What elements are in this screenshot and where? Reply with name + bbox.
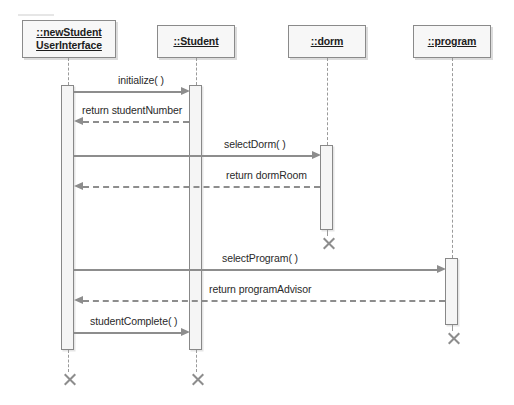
activation-bar-program[interactable]: [445, 258, 458, 325]
activation-bar-student[interactable]: [189, 85, 202, 350]
lifeline-head-student[interactable]: ::Student: [157, 25, 235, 58]
lifeline-head-ui[interactable]: ::newStudent UserInterface: [22, 20, 116, 58]
termination-x-student: [189, 372, 204, 387]
message-arrowhead-return-dorm-room: [74, 182, 83, 190]
message-line-return-program-advisor: [83, 300, 445, 302]
message-label-return-student-number: return studentNumber: [82, 104, 182, 116]
message-label-return-program-advisor: return programAdvisor: [209, 283, 311, 295]
message-line-return-dorm-room: [83, 186, 320, 188]
activation-bar-ui[interactable]: [61, 85, 74, 350]
lifeline-head-dorm[interactable]: ::dorm: [288, 25, 366, 58]
message-line-student-complete: [74, 332, 181, 334]
message-label-initialize: initialize( ): [118, 74, 164, 86]
lifeline-student-name-line-1: ::Student: [173, 35, 218, 48]
lifeline-ui-name-line-1: ::newStudent: [36, 26, 101, 39]
lifeline-stub-student: [196, 350, 197, 372]
message-arrowhead-select-dorm: [312, 151, 321, 159]
termination-x-ui: [61, 372, 76, 387]
message-label-student-complete: studentComplete( ): [90, 315, 178, 327]
message-line-initialize: [74, 91, 181, 93]
message-line-return-student-number: [83, 121, 189, 123]
message-arrowhead-initialize: [181, 87, 190, 95]
termination-x-dorm: [320, 236, 335, 251]
lifeline-line-ui: [68, 58, 69, 85]
lifeline-line-student: [196, 58, 197, 85]
message-arrowhead-return-program-advisor: [74, 296, 83, 304]
message-line-select-dorm: [74, 155, 312, 157]
lifeline-line-dorm: [327, 58, 328, 145]
lifeline-line-program: [452, 58, 453, 258]
lifeline-dorm-name-line-1: ::dorm: [311, 35, 344, 48]
message-label-select-dorm: selectDorm( ): [224, 138, 286, 150]
activation-bar-dorm[interactable]: [320, 145, 333, 230]
message-arrowhead-student-complete: [181, 328, 190, 336]
message-line-select-program: [74, 269, 437, 271]
termination-x-program: [445, 331, 460, 346]
message-arrowhead-return-student-number: [74, 117, 83, 125]
lifeline-stub-ui: [68, 350, 69, 372]
message-arrowhead-select-program: [437, 265, 446, 273]
message-label-select-program: selectProgram( ): [222, 252, 298, 264]
lifeline-head-program[interactable]: ::program: [413, 25, 491, 58]
lifeline-ui-name-line-2: UserInterface: [36, 39, 102, 52]
message-label-return-dorm-room: return dormRoom: [226, 169, 307, 181]
scan-artifact: [18, 14, 54, 16]
sequence-diagram-canvas: ::newStudent UserInterface ::Student ::d…: [0, 0, 514, 405]
lifeline-program-name-line-1: ::program: [428, 35, 477, 48]
